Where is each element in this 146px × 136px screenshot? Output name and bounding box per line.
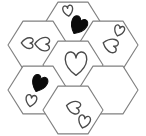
hexagon-hearts-svg	[0, 0, 146, 136]
hexagon-hearts-figure	[0, 0, 146, 136]
